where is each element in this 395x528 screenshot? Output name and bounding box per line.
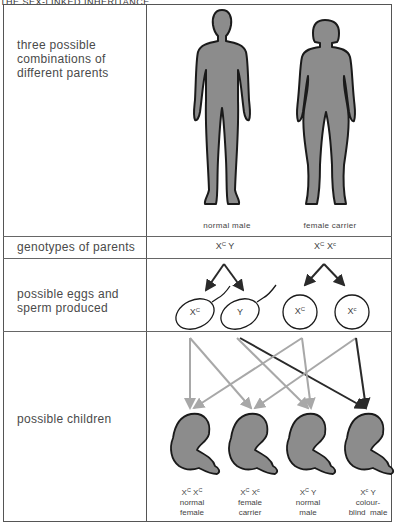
arrow	[324, 264, 344, 285]
child-normal-female-icon	[171, 414, 219, 474]
parent-caption-male: normal male	[192, 221, 262, 230]
gamete-label: Y	[230, 307, 250, 317]
child-caption: XC Y normalmale	[283, 485, 333, 518]
child-colour-blind-male-icon	[345, 414, 393, 474]
child-female-carrier-icon	[229, 414, 277, 474]
arrow	[190, 338, 251, 408]
gamete-label: XC	[290, 306, 310, 316]
female-figure-icon	[297, 20, 355, 204]
gamete-label: XC	[185, 307, 205, 317]
gamete-label: Xc	[342, 306, 362, 316]
arrow	[206, 264, 224, 290]
child-caption: Xc Y colour-blind male	[343, 485, 393, 518]
child-caption: XC XC normalfemale	[167, 485, 217, 518]
parent-caption-female: female carrier	[290, 221, 370, 230]
child-normal-male-icon	[287, 414, 335, 474]
arrow	[305, 264, 324, 285]
diagram-graphics	[0, 0, 395, 528]
genotype-female: XC Xc	[300, 241, 350, 251]
arrow	[255, 338, 356, 408]
child-caption: XC Xc femalecarrier	[225, 485, 275, 518]
genotype-male: XC Y	[200, 241, 250, 251]
male-figure-icon	[194, 10, 250, 204]
arrow	[356, 338, 366, 408]
arrow	[224, 264, 243, 290]
